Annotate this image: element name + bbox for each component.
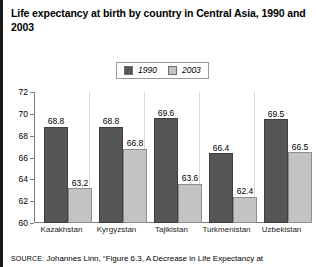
y-axis-label: 66	[19, 153, 28, 162]
bar-value-label: 66.5	[292, 143, 309, 152]
bar-value-label: 69.5	[268, 110, 285, 119]
plot-area: 6062646668707268.863.268.866.869.663.666…	[34, 92, 309, 223]
chart-figure: Life expectancy at birth by country in C…	[0, 0, 316, 267]
bar-group: 68.866.8	[89, 92, 144, 223]
chart-legend: 19902003	[116, 62, 209, 79]
bar-value-label: 63.6	[182, 174, 199, 183]
page-title: Life expectancy at birth by country in C…	[11, 6, 307, 34]
bar-group: 66.462.4	[199, 92, 254, 223]
bar-Uzbekistan-2003[interactable]: 66.5	[288, 152, 312, 223]
bar-value-label: 68.8	[48, 117, 65, 126]
source-text: Johannes Linn, “Figure 6.3, A Decrease i…	[44, 254, 263, 263]
bar-group: 68.863.2	[34, 92, 89, 223]
source-caption: SOURCE: Johannes Linn, “Figure 6.3, A De…	[11, 254, 311, 267]
legend-swatch-icon	[168, 66, 177, 75]
bar-value-label: 62.4	[237, 187, 254, 196]
y-axis-tick	[30, 223, 34, 224]
legend-label: 1990	[138, 66, 157, 75]
y-axis-label: 72	[19, 88, 28, 97]
bar-value-label: 63.2	[72, 179, 89, 188]
y-axis-label: 62	[19, 197, 28, 206]
x-axis-label-Tajikistan: Tajikistan	[144, 226, 199, 234]
bar-value-label: 66.8	[127, 139, 144, 148]
y-axis-label: 64	[19, 175, 28, 184]
y-axis-label: 60	[19, 219, 28, 228]
bar-group: 69.663.6	[144, 92, 199, 223]
x-axis-label-Turkmenistan: Turkmenistan	[199, 226, 254, 234]
source-prefix: SOURCE:	[11, 255, 44, 262]
legend-swatch-icon	[124, 66, 133, 75]
y-axis-label: 68	[19, 131, 28, 140]
bar-Turkmenistan-1990[interactable]: 66.4	[209, 153, 233, 223]
legend-item-2003: 2003	[168, 66, 201, 75]
x-axis-label-Kyrgyzstan: Kyrgyzstan	[89, 226, 144, 234]
legend-item-1990: 1990	[124, 66, 157, 75]
bar-Tajikistan-1990[interactable]: 69.6	[154, 118, 178, 223]
legend-label: 2003	[182, 66, 201, 75]
bar-Uzbekistan-1990[interactable]: 69.5	[264, 119, 288, 223]
x-axis-label-Kazakhstan: Kazakhstan	[34, 226, 89, 234]
bar-Kyrgyzstan-1990[interactable]: 68.8	[99, 127, 123, 223]
bar-group: 69.566.5	[254, 92, 309, 223]
bar-Kazakhstan-1990[interactable]: 68.8	[44, 127, 68, 223]
bar-value-label: 68.8	[103, 117, 120, 126]
x-axis-label-Uzbekistan: Uzbekistan	[254, 226, 309, 234]
y-axis-label: 70	[19, 110, 28, 119]
bar-value-label: 69.6	[158, 109, 175, 118]
bar-value-label: 66.4	[213, 144, 230, 153]
